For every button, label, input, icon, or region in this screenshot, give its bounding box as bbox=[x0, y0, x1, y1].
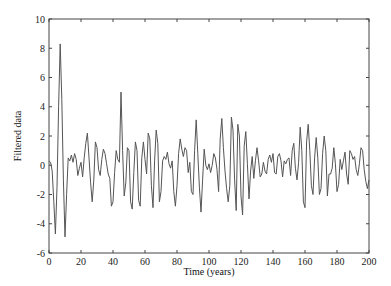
x-tick-label: 160 bbox=[298, 256, 313, 267]
y-tick-label: -2 bbox=[37, 189, 45, 200]
x-tick-label: 140 bbox=[266, 256, 281, 267]
y-tick-label: 2 bbox=[40, 131, 45, 142]
x-tick-label: 180 bbox=[330, 256, 345, 267]
line-chart: 020406080100120140160180200 -6-4-2024681… bbox=[0, 0, 391, 286]
y-tick-label: 6 bbox=[40, 72, 45, 83]
y-tick-label: 4 bbox=[40, 101, 45, 112]
y-tick-label: 0 bbox=[40, 160, 45, 171]
x-tick-label: 200 bbox=[362, 256, 377, 267]
plot-area bbox=[49, 19, 369, 253]
x-tick-label: 120 bbox=[234, 256, 249, 267]
x-tick-label: 40 bbox=[108, 256, 118, 267]
x-tick-label: 80 bbox=[172, 256, 182, 267]
y-axis-label: Filtered data bbox=[12, 110, 23, 161]
x-tick-label: 60 bbox=[140, 256, 150, 267]
y-tick-label: -4 bbox=[37, 218, 45, 229]
y-tick-label: 8 bbox=[40, 43, 45, 54]
x-tick-label: 20 bbox=[76, 256, 86, 267]
y-tick-label: -6 bbox=[37, 248, 45, 259]
x-tick-label: 0 bbox=[47, 256, 52, 267]
y-tick-label: 10 bbox=[35, 14, 45, 25]
x-axis-label: Time (years) bbox=[183, 266, 234, 278]
